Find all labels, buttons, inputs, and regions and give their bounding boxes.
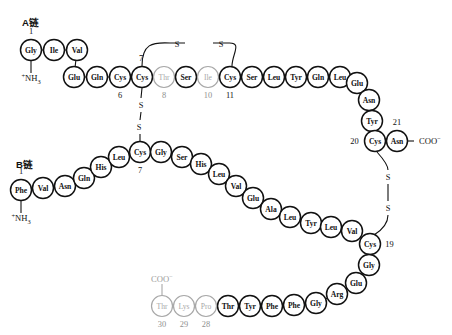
residue-index-label: 30 xyxy=(158,320,166,329)
chain-a-residue-ser-12[interactable]: Ser xyxy=(242,67,263,88)
chain-a-residue-cys-7[interactable]: Cys7 xyxy=(132,54,153,88)
chain-b-residue-tyr-16[interactable]: Tyr xyxy=(301,213,322,234)
chain-a-backbone-group xyxy=(40,50,388,141)
residue-label: Phe xyxy=(266,302,279,311)
chain-a-residue-leu-13[interactable]: Leu xyxy=(264,67,285,88)
residue-label: Leu xyxy=(334,73,347,82)
chain-a-residue-ser-9[interactable]: Ser xyxy=(176,67,197,88)
c-terminus-label: COO− xyxy=(151,272,173,284)
residue-label: Glu xyxy=(351,79,364,88)
insulin-structure-diagram: SSSSSS Gly1IleValGluGlnCys6Cys7Thr8SerIl… xyxy=(0,0,452,335)
chain-b-residue-gly-20[interactable]: Gly xyxy=(359,255,380,276)
residue-label: Arg xyxy=(331,290,344,299)
chain-b-residue-glu-13[interactable]: Glu xyxy=(243,188,264,209)
chain-a-residue-thr-8[interactable]: Thr8 xyxy=(154,67,175,101)
chain-a-residue-tyr-19[interactable]: Tyr xyxy=(362,111,383,132)
chain-a-residue-gln-15[interactable]: Gln xyxy=(308,67,329,88)
disulfide-bond-a6-a11[interactable]: SS xyxy=(142,40,236,67)
sulfur-atom-label: S xyxy=(386,204,391,213)
residue-index-label: 28 xyxy=(202,320,210,329)
chain-b-residue-val-18[interactable]: Val xyxy=(342,221,363,242)
residue-label: Glu xyxy=(350,279,363,288)
n-terminus-label: +NH3 xyxy=(21,72,40,85)
chain-a-n-terminus: +NH3 xyxy=(21,61,40,85)
disulfide-line xyxy=(374,152,388,235)
chain-b-n-terminus: +NH3 xyxy=(11,201,30,225)
chain-b-residue-lys-29[interactable]: Lys29 xyxy=(174,296,195,330)
chain-b-residue-glu-21[interactable]: Glu xyxy=(346,273,367,294)
residue-index-label: 29 xyxy=(180,320,188,329)
residue-index-label: 6 xyxy=(118,91,122,100)
disulfide-bond-a7-b7[interactable]: SS xyxy=(137,88,144,142)
chain-a-residue-cys-11[interactable]: Cys11 xyxy=(220,67,241,101)
chain-b-residue-pro-28[interactable]: Pro28 xyxy=(196,296,217,330)
residue-label: Leu xyxy=(268,73,281,82)
residue-label: Tyr xyxy=(366,117,378,126)
chain-b-residue-phe-1[interactable]: Phe1 xyxy=(11,167,32,201)
chain-a-residue-asn-21[interactable]: Asn21 xyxy=(387,118,408,152)
chain-b-residue-cys-19[interactable]: Cys19 xyxy=(360,234,394,255)
chain-b-residue-gly-23[interactable]: Gly xyxy=(306,293,327,314)
residue-label: Asn xyxy=(363,96,376,105)
residue-label: Thr xyxy=(159,73,170,82)
chain-a-residue-gly-1[interactable]: Gly1 xyxy=(21,27,42,61)
chain-a-residue-cys-20[interactable]: Cys20 xyxy=(350,131,385,152)
residue-label: Ser xyxy=(181,73,193,82)
chain-b-residue-gly-8[interactable]: Gly xyxy=(151,142,172,163)
residue-label: Gln xyxy=(312,73,325,82)
residue-label: Phe xyxy=(288,301,301,310)
disulfide-bond-a20-b19[interactable]: SS xyxy=(374,152,391,235)
residue-label: Glu xyxy=(68,73,81,82)
residue-label: Tyr xyxy=(244,302,256,311)
chain-a-residue-cys-6[interactable]: Cys6 xyxy=(110,67,131,101)
chain-b-residue-leu-17[interactable]: Leu xyxy=(321,217,342,238)
chain-b-residue-leu-6[interactable]: Leu xyxy=(109,147,130,168)
chain-a-residue-tyr-14[interactable]: Tyr xyxy=(286,67,307,88)
n-terminus-label: +NH3 xyxy=(11,212,30,225)
residue-label: Tyr xyxy=(305,219,317,228)
residue-index-label: 21 xyxy=(393,118,401,127)
residue-label: Leu xyxy=(113,153,126,162)
residue-label: Phe xyxy=(15,186,28,195)
residue-label: Ser xyxy=(177,153,189,162)
chain-a-residue-ile-10[interactable]: Ile10 xyxy=(198,67,219,101)
residue-label: Cys xyxy=(134,148,146,157)
chain-b-residue-thr-27[interactable]: Thr xyxy=(218,296,239,317)
chain-a-label: A链 xyxy=(22,17,39,28)
c-terminus-label: COO− xyxy=(419,134,441,146)
chain-b-residue-tyr-26[interactable]: Tyr xyxy=(240,296,261,317)
residue-index-label: 8 xyxy=(162,91,166,100)
chain-b-residue-asn-3[interactable]: Asn xyxy=(55,176,76,197)
residue-label: Glu xyxy=(247,194,260,203)
chain-b-residue-ala-14[interactable]: Ala xyxy=(261,199,282,220)
residue-label: Gln xyxy=(91,73,104,82)
chain-a-residue-gln-5[interactable]: Gln xyxy=(87,67,108,88)
chain-b-residue-leu-15[interactable]: Leu xyxy=(280,207,301,228)
disulfide-line xyxy=(140,88,142,142)
chain-a-residue-val-3[interactable]: Val xyxy=(67,40,88,61)
residue-label: Thr xyxy=(222,302,235,311)
chain-a-residue-glu-4[interactable]: Glu xyxy=(64,67,85,88)
chain-a-residue-ile-2[interactable]: Ile xyxy=(44,40,65,61)
residue-label: Pro xyxy=(201,302,212,311)
residue-label: Val xyxy=(72,46,83,55)
chain-b-residue-phe-25[interactable]: Phe xyxy=(262,296,283,317)
chain-b-residue-cys-7[interactable]: Cys7 xyxy=(130,142,151,176)
residue-label: Tyr xyxy=(290,73,302,82)
residue-label: Ala xyxy=(265,205,277,214)
chain-b-residue-arg-22[interactable]: Arg xyxy=(327,284,348,305)
residue-label: Cys xyxy=(369,137,381,146)
residue-label: Cys xyxy=(114,73,126,82)
chain-a-residue-asn-18[interactable]: Asn xyxy=(359,90,380,111)
residue-label: Asn xyxy=(391,137,404,146)
residue-label: His xyxy=(196,160,207,169)
residue-index-label: 20 xyxy=(350,137,358,146)
chain-b-residue-ser-9[interactable]: Ser xyxy=(172,147,193,168)
chain-b-residue-val-2[interactable]: Val xyxy=(33,178,54,199)
chain-b-residue-group: Phe1ValAsnGlnHisLeuCys7GlySerHisLeuValGl… xyxy=(11,142,394,330)
chain-b-residue-thr-30[interactable]: Thr30 xyxy=(152,296,173,330)
chain-b-residue-phe-24[interactable]: Phe xyxy=(284,295,305,316)
residue-label: Leu xyxy=(325,223,338,232)
residue-label: Val xyxy=(231,182,242,191)
residue-label: Val xyxy=(38,184,49,193)
